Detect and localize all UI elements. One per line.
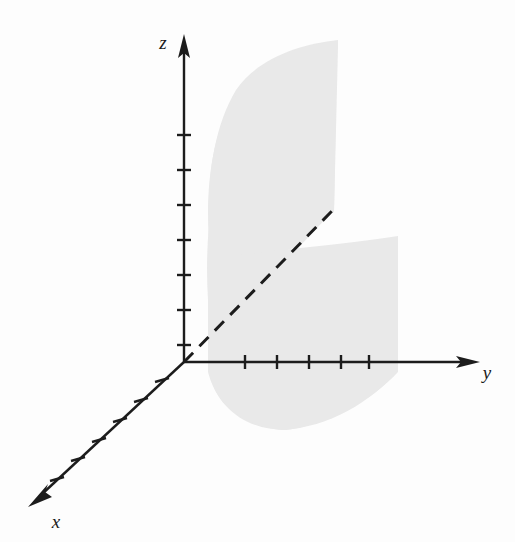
x-axis-label: x <box>51 511 61 532</box>
x-axis: x <box>28 362 184 532</box>
y-axis-label: y <box>481 362 492 383</box>
x-axis-line <box>41 362 184 495</box>
coordinate-diagram: z y <box>0 0 515 542</box>
diagram-canvas: z y <box>0 0 515 542</box>
z-axis-label: z <box>158 32 167 53</box>
shaded-surface <box>207 40 398 430</box>
z-axis: z <box>158 32 191 362</box>
surface-bottom-lobe <box>208 362 398 430</box>
surface-left-flank <box>207 196 240 300</box>
